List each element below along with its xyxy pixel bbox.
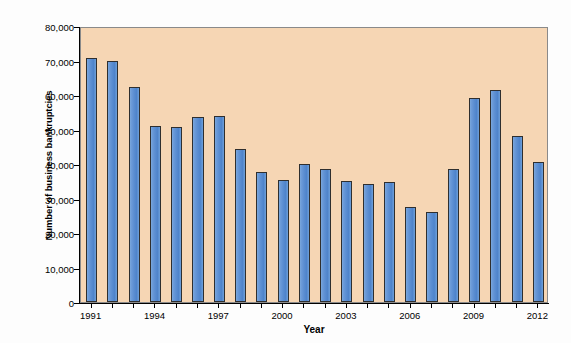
bar	[214, 116, 225, 302]
y-tick-label: 10,000	[28, 263, 74, 274]
x-tick-mark	[197, 304, 198, 308]
bar	[235, 149, 246, 302]
bar	[490, 90, 501, 302]
y-tick-mark	[74, 62, 79, 63]
bar	[363, 184, 374, 302]
bar	[533, 162, 544, 302]
x-tick-mark	[431, 304, 432, 308]
bar	[129, 87, 140, 302]
x-tick-label: 2003	[335, 310, 356, 321]
y-tick-mark	[74, 269, 79, 270]
bar	[512, 136, 523, 302]
x-tick-mark	[218, 304, 219, 308]
chart-figure: Number of business bankruptcies 010,0002…	[0, 0, 571, 343]
x-tick-mark	[388, 304, 389, 308]
x-tick-mark	[452, 304, 453, 308]
x-tick-mark	[91, 304, 92, 308]
bar	[278, 180, 289, 302]
x-tick-mark	[176, 304, 177, 308]
y-tick-label: 60,000	[28, 91, 74, 102]
x-tick-mark	[303, 304, 304, 308]
bar	[405, 207, 416, 302]
x-tick-mark	[325, 304, 326, 308]
bar	[426, 212, 437, 302]
y-tick-mark	[74, 96, 79, 97]
x-tick-mark	[410, 304, 411, 308]
y-tick-label: 50,000	[28, 125, 74, 136]
x-tick-label: 1994	[144, 310, 165, 321]
y-tick-mark	[74, 131, 79, 132]
bar	[150, 126, 161, 302]
bar	[299, 164, 310, 302]
y-tick-label: 20,000	[28, 229, 74, 240]
y-tick-mark	[74, 27, 79, 28]
x-tick-label: 1997	[208, 310, 229, 321]
x-tick-mark	[240, 304, 241, 308]
x-tick-mark	[282, 304, 283, 308]
bar	[320, 169, 331, 302]
x-tick-mark	[133, 304, 134, 308]
x-axis-title: Year	[80, 324, 548, 335]
y-tick-mark	[74, 234, 79, 235]
x-tick-mark	[537, 304, 538, 308]
bar	[171, 127, 182, 302]
x-tick-mark	[112, 304, 113, 308]
x-tick-label: 2009	[463, 310, 484, 321]
x-tick-mark	[154, 304, 155, 308]
y-tick-label: 30,000	[28, 194, 74, 205]
x-tick-mark	[495, 304, 496, 308]
y-tick-mark	[74, 200, 79, 201]
x-tick-mark	[367, 304, 368, 308]
y-tick-label: 40,000	[28, 160, 74, 171]
y-tick-label: 80,000	[28, 22, 74, 33]
x-tick-mark	[474, 304, 475, 308]
x-tick-label: 1991	[80, 310, 101, 321]
y-tick-mark	[74, 165, 79, 166]
y-tick-label: 70,000	[28, 56, 74, 67]
x-axis-tick-labels: 19911994199720002003200620092012	[80, 304, 548, 324]
x-tick-mark	[261, 304, 262, 308]
x-tick-mark	[516, 304, 517, 308]
bars-container	[81, 28, 547, 302]
plot-area	[80, 27, 548, 303]
bar	[256, 172, 267, 302]
x-tick-label: 2006	[399, 310, 420, 321]
bar	[448, 169, 459, 303]
x-tick-mark	[346, 304, 347, 308]
bar	[86, 58, 97, 302]
bar	[341, 181, 352, 302]
y-tick-mark	[74, 303, 79, 304]
bar	[192, 117, 203, 302]
x-tick-label: 2000	[272, 310, 293, 321]
bar	[107, 61, 118, 303]
bar	[384, 182, 395, 302]
x-tick-label: 2012	[527, 310, 548, 321]
y-axis-tick-labels: 010,00020,00030,00040,00050,00060,00070,…	[24, 0, 74, 343]
y-tick-label: 0	[28, 298, 74, 309]
bar	[469, 98, 480, 302]
